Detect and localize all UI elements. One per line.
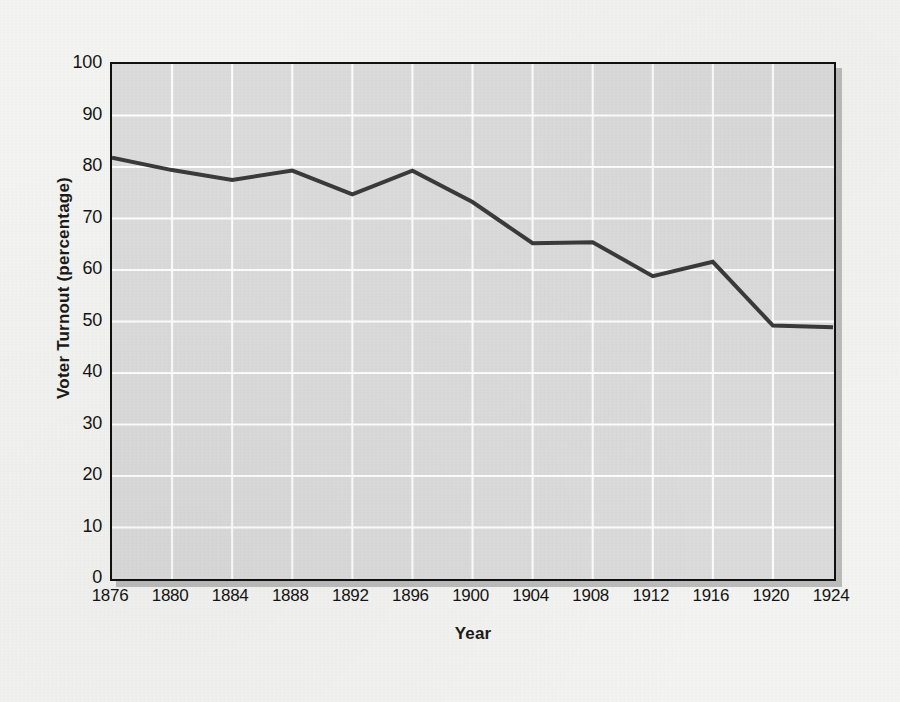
y-tick-label: 100 bbox=[54, 52, 102, 73]
y-tick-label: 20 bbox=[54, 464, 102, 485]
y-tick-label: 90 bbox=[54, 103, 102, 124]
chart-figure: Voter Turnout (percentage) 0102030405060… bbox=[0, 0, 900, 702]
plot-area bbox=[110, 62, 836, 581]
y-tick-label: 60 bbox=[54, 258, 102, 279]
y-tick-label: 50 bbox=[54, 309, 102, 330]
y-tick-label: 10 bbox=[54, 515, 102, 536]
x-tick-label: 1924 bbox=[796, 586, 866, 606]
y-tick-label: 70 bbox=[54, 206, 102, 227]
y-tick-label: 80 bbox=[54, 155, 102, 176]
y-tick-label: 0 bbox=[54, 567, 102, 588]
chart-canvas bbox=[112, 64, 834, 579]
x-axis-title: Year bbox=[110, 624, 836, 644]
y-tick-label: 30 bbox=[54, 412, 102, 433]
y-tick-label: 40 bbox=[54, 361, 102, 382]
